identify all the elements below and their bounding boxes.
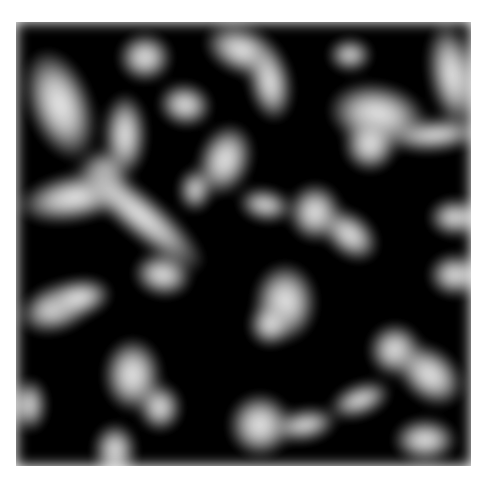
bright-blob xyxy=(250,305,290,345)
bright-blob xyxy=(330,40,370,70)
bright-blob xyxy=(238,186,292,224)
pattern-image xyxy=(16,22,471,466)
bright-blob xyxy=(180,170,210,210)
bright-blob xyxy=(345,120,395,170)
bright-blob xyxy=(422,22,471,128)
bright-blob xyxy=(430,255,471,295)
bright-blob xyxy=(395,420,455,460)
bright-blob xyxy=(16,380,45,430)
bright-blob xyxy=(327,376,394,425)
bright-blob xyxy=(95,425,135,466)
bright-blob xyxy=(430,200,471,235)
bright-blob xyxy=(120,35,170,80)
blob-layer xyxy=(16,22,471,466)
pattern-canvas xyxy=(16,22,471,466)
bright-blob xyxy=(140,385,180,430)
bright-blob xyxy=(157,81,213,129)
bright-blob xyxy=(16,43,107,167)
